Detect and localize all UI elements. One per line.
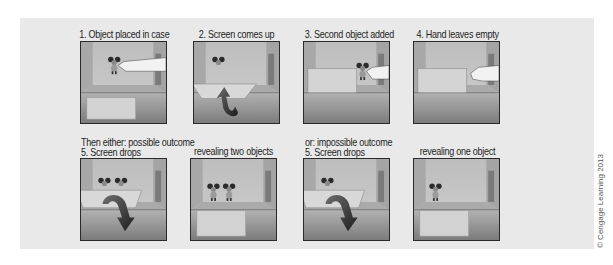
panel-screen-drops-impossible (303, 158, 390, 241)
panel-hand-leaves-empty (413, 41, 500, 124)
caption-step-4: 4. Hand leaves empty (417, 29, 497, 40)
panel-object-placed (80, 41, 167, 124)
caption-step-2: 2. Screen comes up (197, 29, 277, 40)
caption-step-5-possible: 5. Screen drops (81, 147, 141, 158)
panel-screen-drops-possible (80, 158, 167, 241)
copyright-notice: © Cengage Learning 2013 (596, 154, 605, 248)
panel-screen-comes-up (193, 41, 280, 124)
caption-step-1: 1. Object placed in case (79, 29, 168, 40)
caption-reveal-two: revealing two objects (193, 146, 275, 157)
panel-reveal-two-objects (190, 158, 277, 241)
panel-second-object-added (303, 41, 390, 124)
caption-step-5-impossible: 5. Screen drops (305, 147, 365, 158)
caption-step-3: 3. Second object added (305, 29, 388, 40)
panel-reveal-one-object (413, 158, 500, 241)
caption-reveal-one: revealing one object (417, 146, 499, 157)
